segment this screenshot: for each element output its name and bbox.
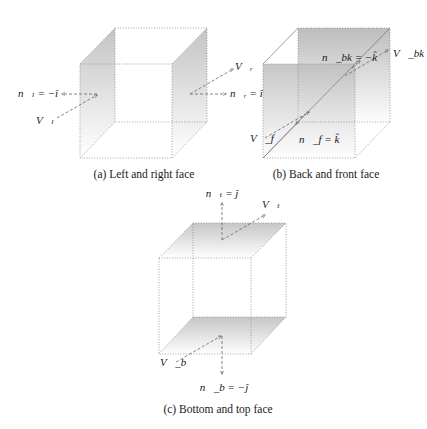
caption-b: (b) Back and front face [273, 168, 380, 181]
label-n-back: n⃗_bk = −k̂ [322, 51, 378, 63]
label-v-left: V⃗ₗ [36, 114, 54, 126]
label-n-left: n⃗ₗ = −î [18, 87, 59, 99]
label-n-bottom: n⃗_b = −ĵ [200, 381, 249, 393]
label-v-front: V⃗_f [250, 132, 276, 144]
caption-a: (a) Left and right face [94, 168, 195, 181]
label-n-right: n⃗ᵣ = î [230, 87, 264, 99]
cube-left-right [57, 28, 233, 158]
left-face-shade [80, 28, 115, 158]
bottom-face-shade [159, 317, 286, 354]
label-v-bottom: V⃗_b [160, 356, 187, 368]
label-v-back: V⃗_bk [393, 47, 425, 59]
label-v-right: V⃗ᵣ [235, 60, 253, 72]
caption-c: (c) Bottom and top face [163, 403, 272, 416]
label-n-top: n⃗ₜ = ĵ [206, 187, 240, 199]
right-face-shade [172, 28, 207, 158]
label-v-top: V⃗ₜ [262, 198, 280, 210]
cube-bottom-top [159, 203, 286, 374]
top-face-shade [159, 223, 286, 258]
label-n-front: n⃗_f = k̂ [299, 133, 341, 145]
figure-canvas: n⃗ₗ = −î V⃗ₗ V⃗ᵣ n⃗ᵣ = î (a) Left and ri… [0, 0, 427, 429]
